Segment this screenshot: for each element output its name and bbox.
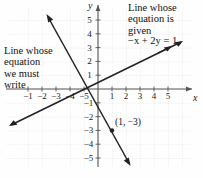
axis-label-x: x <box>193 92 197 103</box>
x-tick--2: −2 <box>35 91 49 101</box>
y-tick-1: 1 <box>84 70 95 80</box>
y-tick--4: −4 <box>82 139 95 149</box>
y-tick--3: −3 <box>82 125 95 135</box>
x-tick--3: −3 <box>49 91 63 101</box>
label-line-given: Line whose equation is given <box>128 2 177 36</box>
axis-label-y: y <box>88 0 92 11</box>
graph-figure: Line whose equation we must write Line w… <box>0 0 203 178</box>
label-given-equation: −x + 2y = 1 <box>128 35 177 46</box>
y-tick--1: −1 <box>82 98 95 108</box>
x-tick--4: −4 <box>63 91 77 101</box>
y-tick-5: 5 <box>84 15 95 25</box>
x-tick--1: −1 <box>21 91 35 101</box>
x-tick-1: 1 <box>105 91 119 101</box>
y-tick--5: −5 <box>82 153 95 163</box>
y-tick-4: 4 <box>84 29 95 39</box>
plotted-point <box>110 128 114 132</box>
x-tick-2: 2 <box>119 91 133 101</box>
x-tick-4: 4 <box>147 91 161 101</box>
y-tick-3: 3 <box>84 43 95 53</box>
label-line-unknown: Line whose equation we must write <box>4 45 53 90</box>
x-tick-3: 3 <box>133 91 147 101</box>
y-tick--2: −2 <box>82 112 95 122</box>
x-tick-5: 5 <box>161 91 175 101</box>
label-plotted-point: (1, −3) <box>115 117 141 127</box>
y-tick-2: 2 <box>84 56 95 66</box>
